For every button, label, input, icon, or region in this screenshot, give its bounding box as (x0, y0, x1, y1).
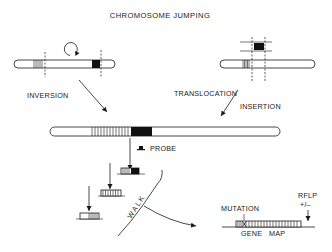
map-label: MAP (269, 229, 285, 238)
target-block (131, 127, 152, 136)
inversion-chromosome (14, 50, 115, 77)
arrow-to-gene-map (144, 206, 196, 226)
probe-label: PROBE (150, 144, 176, 153)
mutation-label: MUTATION (221, 204, 259, 213)
circular-arrow-icon (64, 43, 79, 56)
chromosome-jumping-diagram: CHROMOSOME JUMPING INVERSION (0, 0, 332, 252)
diagram-title: CHROMOSOME JUMPING (110, 11, 210, 20)
translocation-label: TRANSLOCATION (174, 89, 237, 98)
insertion-label: INSERTION (240, 102, 281, 111)
translocation-chromosome (220, 37, 315, 82)
target-block (92, 60, 100, 68)
gene-label: GENE (241, 229, 262, 238)
arrow (79, 80, 107, 112)
rflp-label: RFLP (298, 191, 317, 200)
rflp-sign: +/– (300, 200, 311, 209)
clone-fragment (117, 168, 145, 174)
center-chromosome (50, 127, 280, 136)
walk-label: WALK (125, 193, 147, 220)
target-block (254, 43, 264, 50)
clone-fragment (98, 190, 125, 196)
clone-fragment (76, 213, 103, 219)
probe-icon (137, 146, 145, 150)
inversion-label: INVERSION (27, 91, 68, 100)
gene-map (222, 221, 315, 227)
